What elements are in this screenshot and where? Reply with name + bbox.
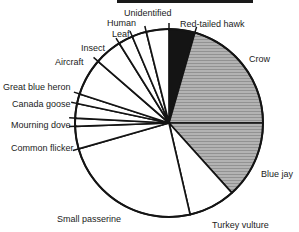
- slice-label-red-tailed-hawk: Red-tailed hawk: [180, 19, 245, 29]
- slice-label-human: Human: [107, 18, 136, 28]
- pie-chart-figure: Red-tailed hawkCrowBlue jayTurkey vultur…: [0, 0, 299, 232]
- slice-label-small-passerine: Small passerine: [57, 214, 121, 224]
- slice-label-unidentified: Unidentified: [124, 8, 172, 18]
- slice-label-crow: Crow: [249, 54, 271, 64]
- slice-label-great-blue-heron: Great blue heron: [3, 82, 71, 92]
- slice-label-canada-goose: Canada goose: [12, 99, 71, 109]
- pie-chart-svg: Red-tailed hawkCrowBlue jayTurkey vultur…: [0, 0, 299, 232]
- slice-label-mourning-dove: Mourning dove: [11, 120, 71, 130]
- slice-label-common-flicker: Common flicker: [11, 143, 74, 153]
- slice-label-turkey-vulture: Turkey vulture: [212, 220, 269, 230]
- slice-label-insect: Insect: [81, 43, 106, 53]
- slice-label-blue-jay: Blue jay: [261, 169, 294, 179]
- slice-label-leaf: Leaf: [112, 29, 130, 39]
- slice-label-aircraft: Aircraft: [55, 57, 84, 67]
